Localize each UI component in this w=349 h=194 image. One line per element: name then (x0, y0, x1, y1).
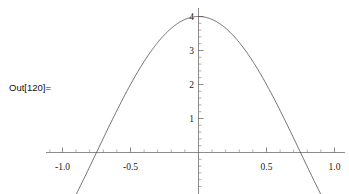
x-tick-label-05: 0.5 (261, 162, 273, 172)
x-tick-label-neg05: -0.5 (123, 162, 138, 172)
plot-svg: -1.0 -0.5 0.5 1.0 1 2 3 4 (0, 0, 349, 194)
y-tick-label-2: 2 (189, 80, 194, 90)
output-cell: Out[120]= (0, 0, 349, 194)
y-tick-label-3: 3 (189, 46, 194, 56)
y-tick-label-1: 1 (189, 114, 194, 124)
x-tick-label-10: 1.0 (329, 162, 341, 172)
x-tick-label-neg1: -1.0 (55, 162, 70, 172)
y-axis-major-ticks (199, 17, 204, 119)
y-axis-minor-ticks (199, 23, 202, 186)
x-axis-minor-ticks (50, 150, 321, 153)
plot-area: -1.0 -0.5 0.5 1.0 1 2 3 4 (0, 0, 349, 194)
